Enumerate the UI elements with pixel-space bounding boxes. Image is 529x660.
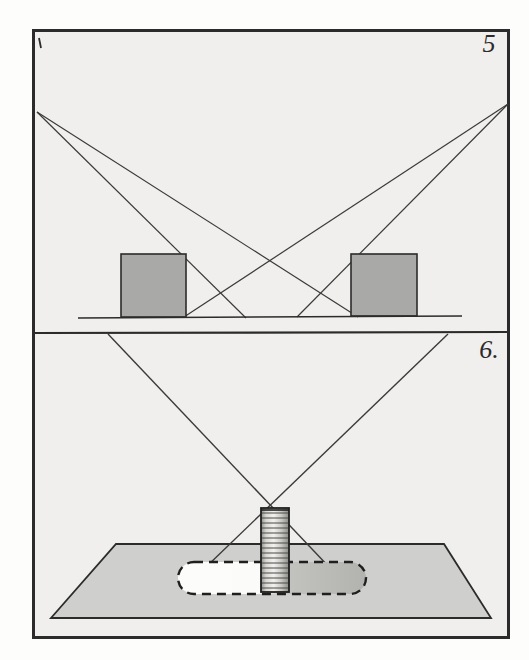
figure-5-label: 5: [483, 29, 496, 58]
left-block: [121, 254, 186, 317]
figure-divider: [34, 332, 508, 333]
right-block: [351, 254, 417, 316]
figure-6-label: 6.: [479, 335, 499, 364]
plate-drawing: 5: [0, 0, 529, 660]
graduated-cylinder: [261, 508, 289, 592]
engraved-plate: 5: [0, 0, 529, 660]
